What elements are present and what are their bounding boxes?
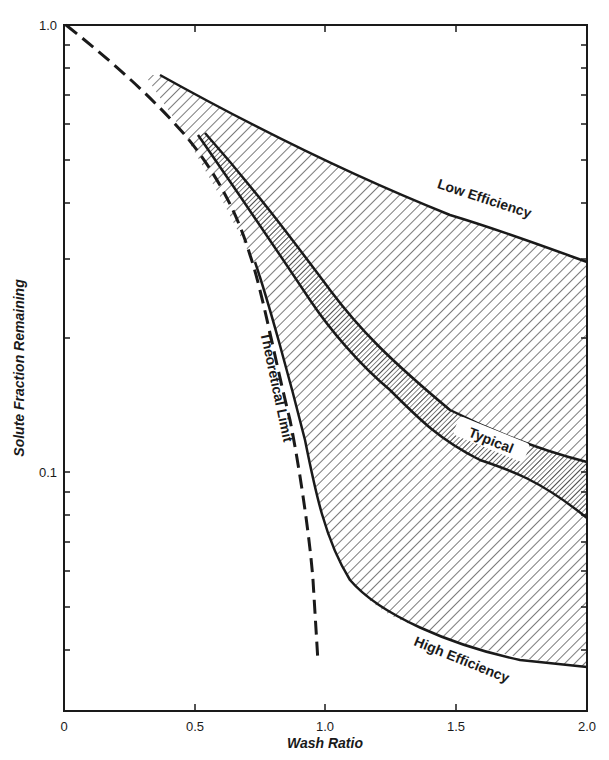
y-tick-0.1: 0.1 — [39, 465, 57, 480]
x-tick-2.0: 2.0 — [578, 719, 596, 734]
x-tick-1.5: 1.5 — [447, 719, 465, 734]
operating-range-region — [145, 75, 587, 667]
x-axis-title: Wash Ratio — [287, 735, 363, 751]
y-tick-1.0: 1.0 — [39, 18, 57, 33]
x-tick-0.5: 0.5 — [186, 719, 204, 734]
y-axis-title: Solute Fraction Remaining — [11, 279, 27, 457]
x-tick-0: 0 — [60, 719, 67, 734]
chart: 0 0.5 1.0 1.5 2.0 1.0 0.1 Wash Ratio Sol… — [0, 0, 609, 760]
x-tick-1.0: 1.0 — [316, 719, 334, 734]
